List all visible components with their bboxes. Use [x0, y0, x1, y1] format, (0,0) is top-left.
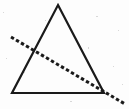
geometry-drawing: [0, 0, 129, 109]
figure-canvas: [0, 0, 129, 109]
